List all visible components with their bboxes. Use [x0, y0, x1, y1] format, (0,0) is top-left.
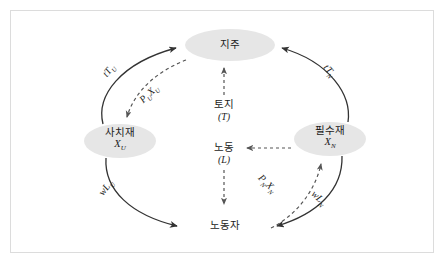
center-label-labor: 노동 (L) — [196, 141, 252, 166]
edge-luxury-to-landlord-solid — [102, 48, 176, 124]
diagram-root: 지주 사치재 XU 필수재 XN 노동자 토지 (T) 노동 (L) tTU P… — [0, 0, 446, 271]
center-label-labor-name: 노동 — [196, 141, 252, 154]
center-label-land-name: 토지 — [196, 98, 252, 111]
edge-luxury-to-worker-solid — [106, 158, 177, 226]
edge-necessity-to-landlord-solid — [282, 48, 348, 122]
diagram-canvas — [0, 0, 446, 271]
node-necessity-goods-ellipse — [294, 122, 366, 156]
edge-necessity-to-worker-solid — [277, 156, 342, 226]
center-label-land-symbol: (T) — [196, 111, 252, 123]
center-label-labor-symbol: (L) — [196, 154, 252, 166]
node-landlord-ellipse — [185, 29, 275, 61]
node-luxury-goods-ellipse — [84, 124, 156, 158]
center-label-land: 토지 (T) — [196, 98, 252, 123]
